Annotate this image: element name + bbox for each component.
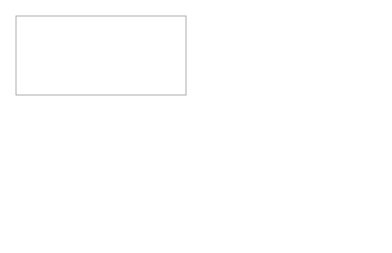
diagram-canvas (0, 0, 392, 253)
panel-a-frame (16, 17, 185, 96)
panel-a (16, 16, 186, 96)
